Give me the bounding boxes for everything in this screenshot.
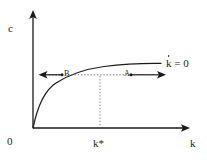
time-derivative-dot-icon [168,55,170,57]
region-a-label: A [124,70,130,78]
region-a-arrow [130,71,167,79]
y-axis-label: c [8,23,13,34]
kdot-zero-locus-curve [33,63,161,128]
kdot-variable-letter: k [166,57,172,69]
kdot-variable: k [166,58,172,69]
kstar-tick-label: k* [93,138,104,149]
region-b-arrow [39,71,64,79]
kdot-zero-locus-label: k = 0 [166,58,189,69]
x-axis-label: k [190,138,196,149]
y-axis [29,10,37,128]
origin-label: 0 [7,136,13,147]
region-b-label: B [64,70,69,78]
phase-diagram-figure: c 0 k* k k = 0 A B [0,0,207,163]
x-axis [33,124,190,132]
kdot-equation-text: = 0 [172,57,189,69]
